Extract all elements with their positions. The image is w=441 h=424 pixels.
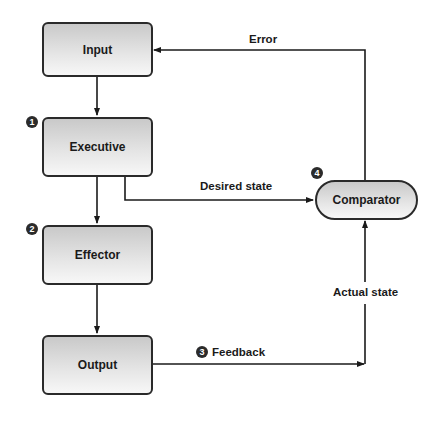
comparator-label: Comparator — [332, 193, 400, 207]
comparator-box: Comparator — [315, 180, 418, 220]
error-label: Error — [249, 33, 277, 45]
marker-2-icon: 2 — [26, 223, 38, 235]
effector-label: Effector — [75, 248, 120, 262]
feedback-label: Feedback — [212, 346, 265, 358]
input-box: Input — [42, 22, 153, 77]
output-box: Output — [42, 335, 153, 395]
marker-4-icon: 4 — [311, 167, 323, 179]
executive-box: Executive — [42, 117, 153, 177]
input-label: Input — [83, 43, 112, 57]
actual-state-label: Actual state — [333, 286, 398, 298]
marker-1-icon: 1 — [26, 116, 38, 128]
output-label: Output — [78, 358, 117, 372]
desired-state-label: Desired state — [200, 180, 272, 192]
executive-label: Executive — [69, 140, 125, 154]
marker-3-icon: 3 — [196, 346, 208, 358]
effector-box: Effector — [42, 225, 153, 285]
